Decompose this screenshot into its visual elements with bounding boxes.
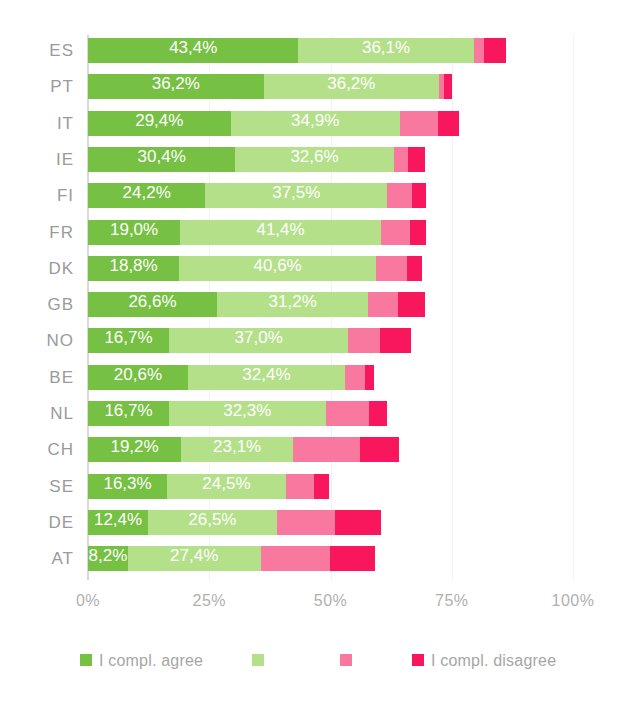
bar-row: NL16,7%32,3% bbox=[0, 398, 628, 429]
bar-row: PT36,2%36,2% bbox=[0, 71, 628, 102]
segment-disagree-strong bbox=[412, 183, 426, 208]
x-tick-50%: 50% bbox=[296, 592, 366, 610]
value-label: 29,4% bbox=[88, 108, 231, 133]
bar-row: AT8,2%27,4% bbox=[0, 543, 628, 574]
category-label-de: DE bbox=[0, 507, 74, 538]
chart-legend: I compl. agreeI compl. disagree bbox=[0, 648, 628, 682]
bar-row: FR19,0%41,4% bbox=[0, 217, 628, 248]
category-label-no: NO bbox=[0, 325, 74, 356]
category-label-it: IT bbox=[0, 108, 74, 139]
segment-disagree-strong bbox=[398, 292, 425, 317]
value-label: 32,6% bbox=[235, 144, 393, 169]
bar-row: GB26,6%31,2% bbox=[0, 289, 628, 320]
segment-disagree-strong bbox=[380, 328, 410, 353]
segment-disagree-strong bbox=[314, 474, 329, 499]
segment-disagree bbox=[387, 183, 412, 208]
legend-label: I compl. agree bbox=[99, 652, 203, 669]
bar-row: CH19,2%23,1% bbox=[0, 434, 628, 465]
segment-disagree bbox=[348, 328, 380, 353]
segment-disagree bbox=[400, 111, 438, 136]
value-label: 16,7% bbox=[88, 325, 169, 350]
segment-disagree bbox=[326, 401, 369, 426]
segment-disagree bbox=[277, 510, 335, 535]
category-label-dk: DK bbox=[0, 253, 74, 284]
value-label: 12,4% bbox=[88, 507, 148, 532]
category-label-fr: FR bbox=[0, 217, 74, 248]
segment-disagree bbox=[381, 220, 410, 245]
segment-disagree-strong bbox=[410, 220, 426, 245]
legend-swatch-icon bbox=[80, 654, 92, 666]
stacked-bar-chart: ES43,4%36,1%PT36,2%36,2%IT29,4%34,9%IE30… bbox=[0, 0, 628, 710]
x-tick-25%: 25% bbox=[174, 592, 244, 610]
segment-disagree bbox=[376, 256, 407, 281]
legend-item-0[interactable]: I compl. agree bbox=[80, 648, 203, 672]
segment-disagree-strong bbox=[365, 365, 374, 390]
bar-row: NO16,7%37,0% bbox=[0, 325, 628, 356]
legend-swatch-icon bbox=[412, 654, 424, 666]
segment-disagree-strong bbox=[484, 38, 506, 63]
bar-row: IE30,4%32,6% bbox=[0, 144, 628, 175]
value-label: 30,4% bbox=[88, 144, 235, 169]
category-label-gb: GB bbox=[0, 289, 74, 320]
value-label: 27,4% bbox=[128, 543, 261, 568]
value-label: 41,4% bbox=[180, 217, 381, 242]
segment-disagree-strong bbox=[330, 546, 376, 571]
value-label: 19,0% bbox=[88, 217, 180, 242]
bar-row: BE20,6%32,4% bbox=[0, 362, 628, 393]
value-label: 24,2% bbox=[88, 180, 205, 205]
value-label: 37,5% bbox=[205, 180, 387, 205]
value-label: 36,2% bbox=[88, 71, 264, 96]
category-label-nl: NL bbox=[0, 398, 74, 429]
category-label-se: SE bbox=[0, 471, 74, 502]
value-label: 16,7% bbox=[88, 398, 169, 423]
segment-disagree bbox=[261, 546, 330, 571]
x-tick-0%: 0% bbox=[53, 592, 123, 610]
segment-disagree-strong bbox=[438, 111, 460, 136]
segment-disagree bbox=[394, 147, 409, 172]
value-label: 19,2% bbox=[88, 434, 181, 459]
value-label: 26,6% bbox=[88, 289, 217, 314]
legend-label: I compl. disagree bbox=[431, 652, 556, 669]
category-label-be: BE bbox=[0, 362, 74, 393]
bar-row: DK18,8%40,6% bbox=[0, 253, 628, 284]
legend-item-2[interactable] bbox=[340, 648, 359, 672]
segment-disagree bbox=[286, 474, 314, 499]
legend-item-1[interactable] bbox=[252, 648, 271, 672]
value-label: 26,5% bbox=[148, 507, 277, 532]
value-label: 36,1% bbox=[298, 35, 473, 60]
segment-disagree-strong bbox=[335, 510, 381, 535]
value-label: 31,2% bbox=[217, 289, 368, 314]
value-label: 20,6% bbox=[88, 362, 188, 387]
category-label-pt: PT bbox=[0, 71, 74, 102]
value-label: 40,6% bbox=[179, 253, 376, 278]
segment-disagree bbox=[368, 292, 398, 317]
segment-disagree bbox=[345, 365, 365, 390]
bar-row: IT29,4%34,9% bbox=[0, 108, 628, 139]
value-label: 23,1% bbox=[181, 434, 293, 459]
value-label: 32,4% bbox=[188, 362, 345, 387]
legend-item-3[interactable]: I compl. disagree bbox=[412, 648, 556, 672]
segment-disagree bbox=[474, 38, 484, 63]
segment-disagree-strong bbox=[407, 256, 422, 281]
segment-disagree bbox=[293, 437, 359, 462]
value-label: 36,2% bbox=[264, 71, 440, 96]
bar-row: SE16,3%24,5% bbox=[0, 471, 628, 502]
segment-disagree-strong bbox=[444, 74, 452, 99]
category-label-ie: IE bbox=[0, 144, 74, 175]
value-label: 18,8% bbox=[88, 253, 179, 278]
category-label-fi: FI bbox=[0, 180, 74, 211]
x-tick-100%: 100% bbox=[538, 592, 608, 610]
category-label-es: ES bbox=[0, 35, 74, 66]
segment-disagree-strong bbox=[369, 401, 387, 426]
bar-row: ES43,4%36,1% bbox=[0, 35, 628, 66]
legend-swatch-icon bbox=[340, 654, 352, 666]
plot-area: ES43,4%36,1%PT36,2%36,2%IT29,4%34,9%IE30… bbox=[0, 0, 628, 600]
category-label-ch: CH bbox=[0, 434, 74, 465]
legend-swatch-icon bbox=[252, 654, 264, 666]
value-label: 37,0% bbox=[169, 325, 348, 350]
bar-row: DE12,4%26,5% bbox=[0, 507, 628, 538]
value-label: 34,9% bbox=[231, 108, 400, 133]
value-label: 16,3% bbox=[88, 471, 167, 496]
x-tick-75%: 75% bbox=[417, 592, 487, 610]
category-label-at: AT bbox=[0, 543, 74, 574]
